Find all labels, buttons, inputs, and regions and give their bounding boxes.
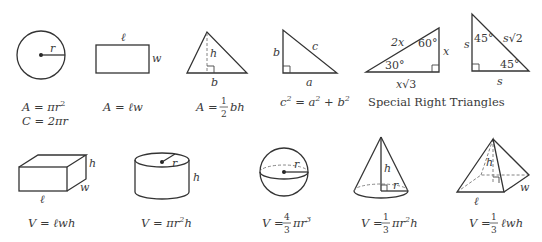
triangle-base-label: b (211, 76, 218, 89)
svg-text:3: 3 (284, 225, 290, 235)
rectangle-figure: ℓ w (96, 31, 162, 73)
pyramid-length-label: ℓ (474, 195, 479, 208)
circle-area-formula: A = πr2 (21, 99, 65, 114)
sphere-figure: r (260, 148, 308, 196)
circle-formulas: A = πr2 C = 2πr (21, 99, 70, 128)
right-triangle-outline (283, 30, 337, 73)
svg-text:3: 3 (491, 225, 497, 235)
circle-circumference-formula: C = 2πr (22, 114, 70, 128)
triangle-45-45-90-bottom-leg-label: s (497, 75, 503, 88)
rectangle-area-formula: A = ℓw (102, 100, 143, 114)
sphere-radius-label: r (294, 158, 300, 171)
pyramid-figure: h ℓ w (457, 139, 530, 208)
svg-text:V =: V = (469, 216, 491, 230)
triangle-45-45-90-hypotenuse-label: s√2 (503, 32, 523, 45)
svg-text:πr2h: πr2h (391, 215, 418, 230)
right-triangle-right-angle-mark (283, 66, 290, 73)
triangle-30-60-90-right-angle-mark (432, 65, 439, 72)
cylinder-figure: r h (135, 153, 200, 199)
svg-text:V =: V = (262, 216, 284, 230)
triangle-30-60-90-hypotenuse-label: 2x (390, 36, 405, 49)
cone-base-front (354, 191, 408, 198)
pythagorean-formula: c2 = a2 + b2 (280, 94, 350, 109)
special-right-triangles-caption: Special Right Triangles (368, 95, 505, 109)
box-width-label: w (80, 181, 90, 194)
svg-text:3: 3 (383, 225, 389, 235)
triangle-right-angle-mark (207, 66, 214, 73)
right-triangle-leg-b-label: b (273, 46, 280, 59)
rectangle-length-label: ℓ (121, 31, 126, 44)
cone-right-angle-mark (381, 185, 387, 191)
pyramid-hidden-base-edges (457, 175, 529, 192)
right-triangle-hypotenuse-label: c (312, 40, 318, 53)
triangle-45-45-90-angle-top: 45° (474, 32, 494, 45)
cone-radius-label: r (393, 179, 399, 192)
box-front-face (19, 167, 67, 191)
cylinder-radius-label: r (172, 157, 178, 170)
triangle-area-formula: A = 1 2 bh (195, 96, 245, 119)
svg-text:ℓwh: ℓwh (501, 216, 523, 230)
triangle-45-45-90-right-angle-mark (472, 64, 479, 71)
svg-text:2: 2 (221, 109, 227, 119)
circle-radius-label: r (50, 42, 56, 55)
cone-left-slant (354, 137, 381, 191)
cylinder-height-label: h (193, 171, 200, 184)
triangle-45-45-90-angle-bottom: 45° (500, 58, 520, 71)
pyramid-height-label: h (486, 156, 493, 169)
right-triangle-figure: b c a (273, 30, 337, 89)
pyramid-width-label: w (520, 181, 530, 194)
triangle-45-45-90-figure: s 45° s√2 45° s (464, 14, 529, 88)
triangle-height-label: h (210, 47, 217, 60)
box-figure: h w ℓ (19, 155, 96, 206)
svg-text:4: 4 (284, 212, 290, 222)
pyramid-front-face (457, 139, 504, 192)
triangle-30-60-90-figure: 2x x 60° 30° x√3 (366, 28, 450, 91)
triangle-30-60-90-angle-60: 60° (418, 37, 438, 50)
svg-text:A =: A = (195, 100, 218, 114)
pyramid-right-angle-mark (493, 177, 499, 183)
triangle-30-60-90-angle-30: 30° (385, 59, 405, 72)
triangle-30-60-90-short-leg-label: x (443, 45, 450, 58)
right-triangle-leg-a-label: a (306, 76, 313, 89)
triangle-30-60-90-long-leg-label: x√3 (396, 78, 416, 91)
cone-height-label: h (384, 162, 391, 175)
triangle-45-45-90-left-leg-label: s (464, 38, 470, 51)
svg-text:bh: bh (230, 100, 245, 114)
circle-figure: r (17, 31, 65, 79)
svg-text:1: 1 (383, 212, 389, 222)
svg-text:1: 1 (491, 212, 497, 222)
box-top-face (19, 155, 86, 167)
cone-volume-formula: V = 1 3 πr2h (361, 212, 418, 235)
cone-figure: h r (354, 137, 408, 198)
box-volume-formula: V = ℓwh (28, 216, 75, 230)
svg-text:V =: V = (361, 216, 383, 230)
svg-text:1: 1 (221, 96, 227, 106)
sphere-volume-formula: V = 4 3 πr3 (262, 212, 311, 235)
box-height-label: h (89, 157, 96, 170)
box-length-label: ℓ (40, 193, 45, 206)
pyramid-volume-formula: V = 1 3 ℓwh (469, 212, 523, 235)
triangle-figure: h b (187, 32, 247, 89)
cylinder-bottom-arc (135, 192, 189, 199)
cylinder-volume-formula: V = πr2h (141, 215, 192, 230)
geometry-reference-sheet: r A = πr2 C = 2πr ℓ w A = ℓw h b A = 1 2… (0, 0, 542, 242)
svg-text:πr3: πr3 (292, 215, 311, 230)
rectangle-outline (96, 45, 149, 73)
rectangle-width-label: w (152, 52, 162, 65)
